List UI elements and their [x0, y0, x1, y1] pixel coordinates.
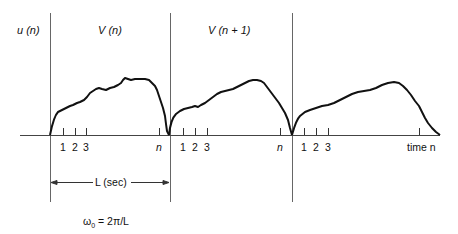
tick-label: 1	[60, 142, 66, 153]
signal-curve-window-1	[50, 78, 169, 135]
tick-label: n	[277, 142, 283, 153]
formula-rest: = 2π/L	[95, 215, 129, 227]
tick-label: 1	[301, 142, 307, 153]
axis-label-text: time n	[407, 141, 436, 153]
axis-label: time n	[407, 142, 436, 153]
formula: ω0 = 2π/L	[83, 216, 129, 229]
arrowhead-right-icon	[163, 181, 169, 185]
formula-omega: ω	[83, 215, 91, 227]
signal-curve-window-3	[292, 82, 440, 135]
window-label-2: V (n + 1)	[208, 25, 251, 36]
tick-label: 3	[83, 142, 89, 153]
tick-label: 2	[192, 142, 198, 153]
signal-label: u (n)	[17, 25, 40, 36]
tick-marks	[64, 128, 420, 135]
tick-label: 3	[325, 142, 331, 153]
arrowhead-left-icon	[51, 181, 57, 185]
tick-label: 3	[204, 142, 210, 153]
tick-label: 1	[180, 142, 186, 153]
period-label: L (sec)	[95, 177, 127, 188]
tick-label: 2	[313, 142, 319, 153]
window-label-1: V (n)	[98, 25, 122, 36]
tick-label: 2	[72, 142, 78, 153]
tick-label: n	[156, 142, 162, 153]
signal-curve-window-2	[169, 80, 292, 135]
